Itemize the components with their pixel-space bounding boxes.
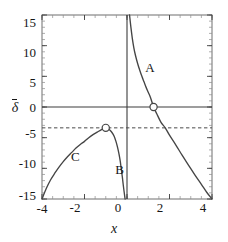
y-tick-label-5: 5 bbox=[12, 76, 36, 89]
overbar-glyph bbox=[12, 99, 18, 100]
y-axis-title-text: δ bbox=[12, 100, 19, 115]
root-marker-a bbox=[150, 103, 157, 110]
y-axis-title: δ bbox=[6, 98, 24, 116]
x-tick-label-neg4: -4 bbox=[32, 202, 52, 215]
y-tick-label-15: 15 bbox=[12, 16, 36, 29]
y-tick-label-neg10: -10 bbox=[8, 157, 36, 170]
curve-label-b: B bbox=[115, 163, 124, 176]
x-tick-label-0: 0 bbox=[108, 201, 128, 214]
curve-label-a: A bbox=[145, 61, 154, 74]
x-tick-label-4: 4 bbox=[193, 201, 213, 214]
curve-label-c: C bbox=[71, 150, 80, 163]
chart-figure: 15 10 5 0 -5 -10 -15 -4 -2 0 2 4 δ x A B… bbox=[0, 0, 228, 242]
x-axis-title: x bbox=[0, 222, 228, 236]
y-tick-label-neg15: -15 bbox=[8, 189, 36, 202]
x-tick-label-neg2: -2 bbox=[65, 201, 85, 214]
y-tick-label-neg5: -5 bbox=[10, 127, 36, 140]
y-tick-label-10: 10 bbox=[12, 46, 36, 59]
tangency-marker-bc bbox=[102, 124, 109, 131]
x-tick-label-2: 2 bbox=[150, 201, 170, 214]
